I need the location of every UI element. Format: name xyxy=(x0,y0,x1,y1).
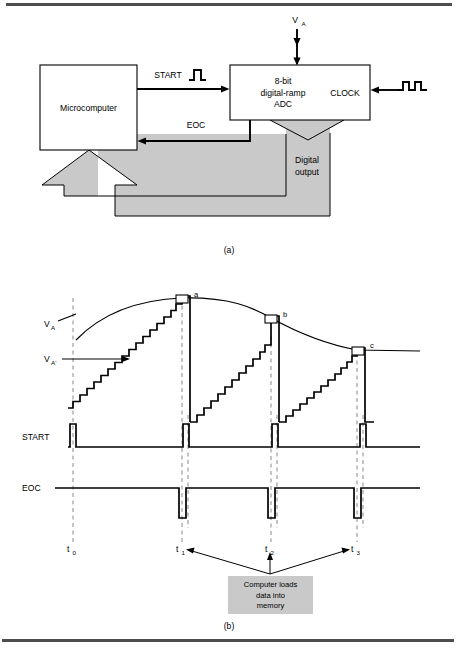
callout-leader-t3 xyxy=(270,551,344,574)
callout-line3: memory xyxy=(257,601,285,610)
va-leader-line xyxy=(58,314,76,321)
adc-label-line1: 8-bit xyxy=(275,76,292,86)
start-pulse-waveform-icon xyxy=(189,70,206,80)
eoc-waveform-trace xyxy=(55,488,420,518)
sample-point-b-marker xyxy=(265,315,277,323)
clock-pulse-waveform-icon xyxy=(398,82,427,90)
sample-point-b-label: b xyxy=(283,310,287,319)
time-marker-labels: t 0 t 1 t 2 t 3 xyxy=(67,544,361,556)
clock-label: CLOCK xyxy=(330,88,360,98)
adc-label-line2: digital-ramp xyxy=(261,88,306,98)
callout-leader-t1 xyxy=(192,551,270,574)
panel-a-caption: (a) xyxy=(224,245,235,255)
start-signal-label: START xyxy=(154,70,182,80)
callout-line1: Computer loads xyxy=(244,580,298,589)
eoc-signal-label: EOC xyxy=(187,120,206,130)
start-arrowhead-icon xyxy=(221,85,230,92)
panel-b-caption: (b) xyxy=(224,621,235,631)
sample-point-c-label: c xyxy=(370,341,374,350)
va-prime-arrowhead-icon xyxy=(122,356,130,362)
analog-input-label: V xyxy=(292,15,298,25)
start-trace-label: START xyxy=(22,432,50,442)
va-label-subscript: A xyxy=(51,324,56,331)
callout-arrowhead-t3-icon xyxy=(342,548,351,554)
adc-timing-figure: Microcomputer 8-bit digital-ramp ADC CLO… xyxy=(0,0,458,655)
va-label: V xyxy=(44,319,50,329)
eoc-trace-label: EOC xyxy=(22,483,41,493)
time-marker-t2-label: t xyxy=(265,544,268,554)
sample-point-c-marker xyxy=(352,347,364,355)
time-marker-t1-subscript: 1 xyxy=(182,549,186,556)
microcomputer-label: Microcomputer xyxy=(60,103,117,113)
start-waveform-trace xyxy=(68,424,420,447)
panel-b: V A V A' a b c START xyxy=(22,290,420,631)
panel-a: Microcomputer 8-bit digital-ramp ADC CLO… xyxy=(40,15,427,255)
time-marker-t1-label: t xyxy=(176,544,179,554)
clock-arrowhead-icon xyxy=(371,86,380,93)
callout-leader-lines xyxy=(186,548,350,575)
callout-arrowhead-t1-icon xyxy=(186,548,195,554)
staircase-ramp-cycle-2 xyxy=(190,316,279,422)
time-marker-t0-label: t xyxy=(67,544,70,554)
adc-label-line3: ADC xyxy=(274,99,292,109)
time-marker-lines xyxy=(73,298,363,542)
va-prime-label-subscript: A' xyxy=(51,359,56,366)
top-rule xyxy=(6,3,452,6)
digital-output-label-line2: output xyxy=(295,167,320,177)
time-marker-t0-subscript: 0 xyxy=(73,549,77,556)
analog-input-arrowhead-mid-icon xyxy=(293,38,300,46)
time-marker-t3-label: t xyxy=(351,544,354,554)
callout-line2: data into xyxy=(256,591,285,600)
digital-output-label-line1: Digital xyxy=(295,155,319,165)
time-marker-t3-subscript: 3 xyxy=(357,549,361,556)
analog-input-subscript: A xyxy=(302,20,307,27)
va-prime-label: V xyxy=(44,354,50,364)
analog-input-arrowhead-icon xyxy=(293,58,300,66)
staircase-ramp-cycle-3 xyxy=(279,348,374,422)
figure-container: Microcomputer 8-bit digital-ramp ADC CLO… xyxy=(0,0,458,655)
bottom-rule xyxy=(2,639,454,642)
va-analog-curve xyxy=(76,298,420,351)
sample-point-a-marker xyxy=(176,295,188,303)
